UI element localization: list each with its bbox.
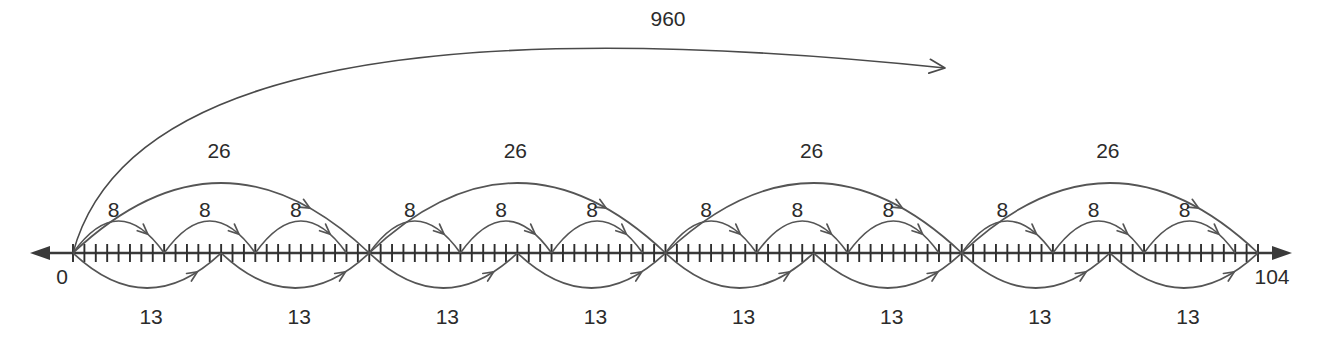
arc-13-label: 13 [1176, 305, 1199, 328]
arc-8-label: 8 [586, 198, 598, 221]
arc-13-label: 13 [732, 305, 755, 328]
arc-26-label: 26 [504, 139, 527, 162]
arc-labels-group: 262626268888888888881313131313131313960 [108, 7, 1200, 328]
arc-8-label: 8 [996, 198, 1008, 221]
arc-13-label: 13 [436, 305, 459, 328]
arc-13-label: 13 [1028, 305, 1051, 328]
arc-13-label: 13 [880, 305, 903, 328]
arc-13-label: 13 [288, 305, 311, 328]
axis-right-arrowhead [1272, 246, 1292, 260]
arc-8-label: 8 [1179, 198, 1191, 221]
arc-26-label: 26 [1096, 139, 1119, 162]
arc-8-label: 8 [495, 198, 507, 221]
arc-8-label: 8 [883, 198, 895, 221]
arc-26-label: 26 [800, 139, 823, 162]
arc-8-label: 8 [791, 198, 803, 221]
number-line-diagram: 262626268888888888881313131313131313960 … [0, 0, 1323, 343]
axis-end-label: 104 [1254, 265, 1289, 288]
arc-8-label: 8 [404, 198, 416, 221]
arc-8-label: 8 [1088, 198, 1100, 221]
arc-8-label: 8 [700, 198, 712, 221]
arc-8-label: 8 [108, 198, 120, 221]
arc-8-label: 8 [199, 198, 211, 221]
arc-26-label: 26 [207, 139, 230, 162]
arcs-26-group [73, 183, 1258, 253]
axis-start-label: 0 [56, 265, 68, 288]
arc-13-label: 13 [584, 305, 607, 328]
axis-left-arrowhead [30, 246, 50, 260]
diagram-canvas: 262626268888888888881313131313131313960 … [0, 0, 1323, 343]
arc-8-label: 8 [290, 198, 302, 221]
arc-960-label: 960 [650, 7, 685, 30]
arc-13-label: 13 [139, 305, 162, 328]
